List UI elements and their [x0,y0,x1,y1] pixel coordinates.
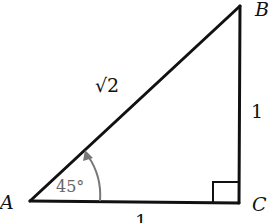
angle-label-a: 45° [56,177,84,196]
vertex-label-c: C [252,193,267,215]
side-label-hypotenuse: √2 [95,74,119,96]
vertex-label-b: B [254,0,269,20]
side-bc [239,6,240,203]
side-label-bc: 1 [251,100,263,122]
side-ab-hypotenuse [30,6,240,201]
side-label-ac: 1 [135,210,147,223]
right-angle-marker [213,182,239,203]
triangle-diagram: A B C √2 1 1 45° [0,0,274,223]
vertex-label-a: A [0,191,14,213]
angle-arc [88,156,100,201]
side-ac [30,201,239,203]
